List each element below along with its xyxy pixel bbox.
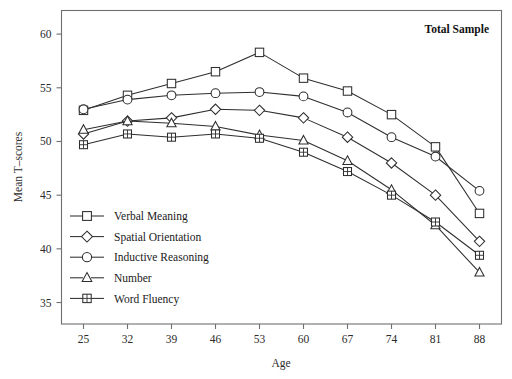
y-tick-label: 35	[40, 297, 52, 309]
data-point-marker-crossed-square	[212, 130, 220, 138]
data-point-marker-square	[255, 48, 263, 56]
x-tick-label: 81	[430, 333, 442, 345]
x-tick-label: 25	[78, 333, 90, 345]
y-axis-title: Mean T–scores	[12, 131, 24, 202]
data-point-marker-circle	[475, 186, 484, 195]
y-tick-label: 60	[40, 28, 52, 40]
x-tick-label: 88	[474, 333, 486, 345]
x-tick-label: 46	[210, 333, 222, 345]
data-point-marker-crossed-square	[300, 148, 308, 156]
legend-label: Inductive Reasoning	[114, 251, 209, 264]
data-point-marker-square	[211, 67, 219, 75]
data-point-marker-circle	[299, 92, 308, 101]
data-point-marker-circle	[79, 105, 88, 114]
legend-label: Number	[114, 272, 152, 284]
data-point-marker-crossed-square	[124, 130, 132, 138]
x-tick-label: 32	[122, 333, 134, 345]
data-point-marker-circle	[211, 89, 220, 98]
chart-figure: 354045505560 25323946536067748188 Verbal…	[0, 0, 512, 379]
data-point-marker-square	[343, 87, 351, 95]
data-point-marker-circle	[167, 91, 176, 100]
plot-title: Total Sample	[425, 23, 489, 36]
data-point-marker-crossed-square	[168, 133, 176, 141]
legend-label: Word Fluency	[114, 293, 179, 306]
data-point-marker-square	[83, 212, 92, 221]
legend-label: Verbal Meaning	[114, 210, 188, 223]
data-point-marker-circle	[82, 253, 91, 262]
x-tick-label: 39	[166, 333, 178, 345]
x-tick-label: 53	[254, 333, 266, 345]
legend-label: Spatial Orientation	[114, 231, 201, 244]
data-point-marker-square	[387, 110, 395, 118]
x-tick-label: 74	[386, 333, 398, 345]
line-chart: 354045505560 25323946536067748188 Verbal…	[0, 0, 512, 379]
x-tick-label: 60	[298, 333, 310, 345]
data-point-marker-crossed-square	[388, 191, 396, 199]
data-point-marker-crossed-square	[432, 218, 440, 226]
y-tick-label: 45	[40, 189, 52, 201]
data-point-marker-circle	[255, 88, 264, 97]
data-point-marker-crossed-square	[344, 168, 352, 176]
data-point-marker-square	[167, 79, 175, 87]
x-axis-title: Age	[271, 357, 290, 370]
data-point-marker-square	[431, 143, 439, 151]
x-tick-label: 67	[342, 333, 354, 345]
data-point-marker-circle	[387, 133, 396, 142]
data-point-marker-crossed-square	[256, 134, 264, 142]
data-point-marker-square	[299, 74, 307, 82]
y-tick-label: 40	[40, 243, 52, 255]
data-point-marker-crossed-square	[476, 251, 484, 259]
data-point-marker-circle	[343, 108, 352, 117]
y-tick-label: 55	[40, 82, 52, 94]
data-point-marker-circle	[123, 95, 132, 104]
data-point-marker-circle	[431, 152, 440, 161]
y-tick-label: 50	[40, 135, 52, 147]
data-point-marker-crossed-square	[83, 294, 91, 302]
data-point-marker-crossed-square	[80, 141, 88, 149]
data-point-marker-square	[475, 209, 483, 217]
